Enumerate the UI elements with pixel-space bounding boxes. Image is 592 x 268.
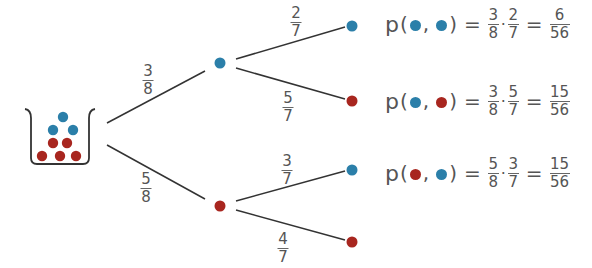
paren-open: ( bbox=[400, 161, 408, 185]
fraction: 38 bbox=[488, 8, 499, 41]
denominator: 8 bbox=[488, 175, 498, 190]
prob-label-blue-first: 3 8 bbox=[143, 64, 154, 97]
paren-open: ( bbox=[400, 12, 408, 36]
denominator: 56 bbox=[550, 26, 569, 41]
ball-red-icon bbox=[48, 138, 58, 148]
denominator: 7 bbox=[509, 175, 519, 190]
numerator: 5 bbox=[141, 172, 151, 187]
equals: = bbox=[464, 12, 481, 36]
ball-blue-icon bbox=[48, 125, 58, 135]
denominator: 7 bbox=[282, 172, 292, 187]
numerator: 5 bbox=[488, 157, 498, 172]
denominator: 56 bbox=[550, 103, 569, 118]
denominator: 7 bbox=[278, 250, 288, 265]
numerator: 6 bbox=[555, 8, 565, 23]
branch-line bbox=[236, 210, 345, 240]
node-blue-icon bbox=[215, 58, 226, 69]
multiply-dot: · bbox=[501, 164, 506, 183]
equals: = bbox=[526, 161, 543, 185]
node-red-icon bbox=[215, 201, 226, 212]
numerator: 5 bbox=[283, 91, 293, 106]
comma: , bbox=[423, 89, 429, 113]
prob-label-red-red: 4 7 bbox=[278, 232, 289, 265]
ball-blue-icon bbox=[436, 20, 447, 31]
numerator: 4 bbox=[278, 232, 288, 247]
multiply-dot: · bbox=[501, 92, 506, 111]
ball-red-icon bbox=[55, 151, 65, 161]
numerator: 3 bbox=[143, 64, 153, 79]
ball-blue-icon bbox=[410, 97, 421, 108]
branch-line bbox=[107, 145, 205, 199]
denominator: 8 bbox=[488, 103, 498, 118]
denominator: 7 bbox=[509, 103, 519, 118]
prob-symbol: p bbox=[385, 89, 399, 114]
result-fraction: 1556 bbox=[550, 157, 570, 190]
numerator: 15 bbox=[550, 157, 569, 172]
equals: = bbox=[526, 12, 543, 36]
denominator: 56 bbox=[550, 175, 569, 190]
fraction: 58 bbox=[488, 157, 499, 190]
prob-label-red-blue: 3 7 bbox=[282, 154, 293, 187]
numerator: 3 bbox=[282, 154, 292, 169]
numerator: 2 bbox=[291, 6, 301, 21]
urn-icon bbox=[25, 109, 95, 164]
formula-blue-blue: p ( , ) = 38 · 27 = 656 bbox=[385, 4, 570, 44]
ball-blue-icon bbox=[68, 125, 78, 135]
branch-line bbox=[107, 71, 205, 123]
denominator: 7 bbox=[283, 109, 293, 124]
leaf-blue-icon bbox=[347, 21, 358, 32]
equals: = bbox=[526, 89, 543, 113]
prob-symbol: p bbox=[385, 12, 399, 37]
paren-close: ) bbox=[449, 161, 457, 185]
formula-blue-red: p ( , ) = 38 · 57 = 1556 bbox=[385, 81, 570, 121]
result-fraction: 1556 bbox=[550, 85, 570, 118]
denominator: 8 bbox=[141, 190, 151, 205]
paren-close: ) bbox=[449, 89, 457, 113]
ball-blue-icon bbox=[436, 169, 447, 180]
result-fraction: 656 bbox=[550, 8, 570, 41]
ball-blue-icon bbox=[58, 112, 68, 122]
leaf-red-icon bbox=[347, 96, 358, 107]
numerator: 5 bbox=[509, 85, 519, 100]
numerator: 3 bbox=[488, 85, 498, 100]
comma: , bbox=[423, 12, 429, 36]
paren-close: ) bbox=[449, 12, 457, 36]
prob-label-blue-blue: 2 7 bbox=[291, 6, 302, 39]
paren-open: ( bbox=[400, 89, 408, 113]
ball-blue-icon bbox=[410, 20, 421, 31]
equals: = bbox=[464, 161, 481, 185]
ball-red-icon bbox=[71, 151, 81, 161]
fraction: 57 bbox=[508, 85, 519, 118]
denominator: 7 bbox=[509, 26, 519, 41]
ball-red-icon bbox=[436, 97, 447, 108]
denominator: 7 bbox=[291, 24, 301, 39]
multiply-dot: · bbox=[501, 15, 506, 34]
leaf-red-icon bbox=[347, 237, 358, 248]
formula-red-blue: p ( , ) = 58 · 37 = 1556 bbox=[385, 153, 570, 193]
ball-red-icon bbox=[410, 169, 421, 180]
comma: , bbox=[423, 161, 429, 185]
ball-red-icon bbox=[37, 151, 47, 161]
prob-label-blue-red: 5 7 bbox=[283, 91, 294, 124]
leaf-blue-icon bbox=[347, 165, 358, 176]
numerator: 3 bbox=[488, 8, 498, 23]
prob-label-red-first: 5 8 bbox=[141, 172, 152, 205]
fraction: 38 bbox=[488, 85, 499, 118]
fraction: 37 bbox=[508, 157, 519, 190]
equals: = bbox=[464, 89, 481, 113]
denominator: 8 bbox=[143, 82, 153, 97]
numerator: 15 bbox=[550, 85, 569, 100]
fraction: 27 bbox=[508, 8, 519, 41]
numerator: 3 bbox=[509, 157, 519, 172]
numerator: 2 bbox=[509, 8, 519, 23]
prob-symbol: p bbox=[385, 161, 399, 186]
ball-red-icon bbox=[62, 138, 72, 148]
denominator: 8 bbox=[488, 26, 498, 41]
